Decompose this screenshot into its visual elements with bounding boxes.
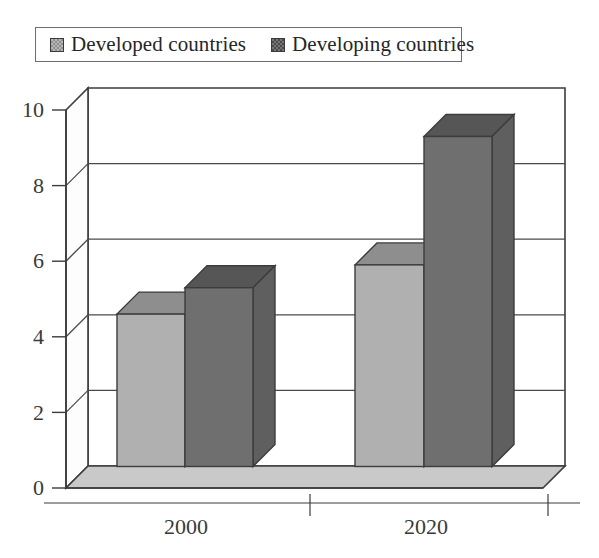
x-tick-marks <box>310 494 548 516</box>
bar-developing-2000[interactable] <box>185 266 275 467</box>
y-tick-label-10: 10 <box>22 97 44 122</box>
bar-front-face <box>117 314 185 466</box>
bar-front-face <box>185 288 253 467</box>
y-tick-label-4: 4 <box>33 324 44 349</box>
left-side-wall <box>66 88 88 488</box>
y-tick-label-8: 8 <box>33 173 44 198</box>
bar-side-face <box>253 266 275 467</box>
y-tick-label-0: 0 <box>33 475 44 500</box>
y-tick-label-2: 2 <box>33 400 44 425</box>
y-tick-marks <box>52 110 66 488</box>
bar-front-face <box>424 137 492 467</box>
bar-front-face <box>355 265 424 467</box>
x-tick-label-2000: 2000 <box>164 514 208 539</box>
x-tick-label-2020: 2020 <box>404 514 448 539</box>
plot-area: 10 8 6 4 2 0 <box>0 0 599 558</box>
bar-chart: Developed countries Developing countries <box>0 0 599 558</box>
bar-side-face <box>492 115 514 467</box>
bar-developing-2020[interactable] <box>424 115 514 467</box>
y-tick-label-6: 6 <box>33 248 44 273</box>
floor-plane <box>66 466 565 488</box>
